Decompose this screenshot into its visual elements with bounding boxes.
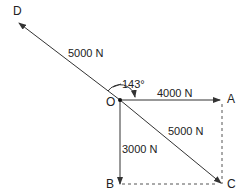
point-label-o: O <box>106 96 115 108</box>
diagram-canvas <box>0 0 248 195</box>
angle-label: 143° <box>122 79 145 90</box>
vector-o-d <box>19 23 120 100</box>
force-label-oa: 4000 N <box>157 88 192 99</box>
point-label-b: B <box>106 178 114 190</box>
force-label-oc: 5000 N <box>168 126 203 137</box>
point-label-c: C <box>227 178 236 190</box>
force-label-od: 5000 N <box>68 48 103 59</box>
force-diagram: D 5000 N 143° 4000 N O A 5000 N 3000 N B… <box>0 0 248 195</box>
point-label-a: A <box>227 93 235 105</box>
point-label-d: D <box>13 5 22 17</box>
origin-point-o <box>118 98 122 102</box>
force-label-ob: 3000 N <box>122 144 157 155</box>
vector-o-c <box>120 100 221 183</box>
